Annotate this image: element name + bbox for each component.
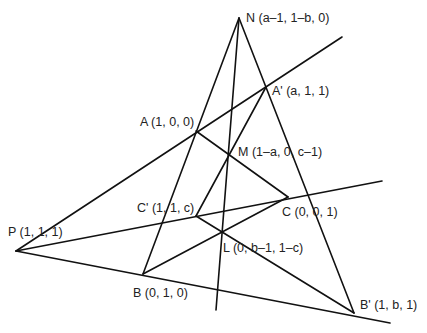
label-A: A (1, 0, 0) — [140, 115, 194, 129]
label-C-prime: C' (1, 1, c) — [137, 201, 194, 215]
label-N: N (a–1, 1–b, 0) — [246, 11, 329, 25]
label-P: P (1, 1, 1) — [8, 225, 63, 239]
line-N-M-L — [216, 18, 239, 310]
label-A-prime: A' (a, 1, 1) — [272, 84, 329, 98]
label-L: L (0, b–1, 1–c) — [223, 241, 303, 255]
label-C: C (0, 0, 1) — [282, 205, 338, 219]
label-M: M (1–a, 0, c–1) — [238, 145, 322, 159]
label-B-prime: B' (1, b, 1) — [360, 298, 417, 312]
label-B: B (0, 1, 0) — [133, 286, 188, 300]
line-A-M-C — [196, 131, 288, 197]
line-N-A-B — [143, 18, 239, 274]
geometry-diagram: N (a–1, 1–b, 0) A' (a, 1, 1) A (1, 0, 0)… — [0, 0, 427, 333]
line-N-Aprime-Bprime — [239, 18, 354, 313]
